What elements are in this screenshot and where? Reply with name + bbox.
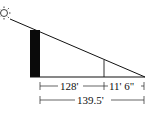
building	[30, 30, 40, 77]
shadow-diagram: 128' 11' 6" 139.5'	[0, 0, 154, 115]
label-11-6: 11' 6"	[109, 80, 134, 92]
label-139-5: 139.5'	[77, 94, 104, 106]
label-128: 128'	[60, 80, 79, 92]
sun-icon	[0, 7, 11, 20]
